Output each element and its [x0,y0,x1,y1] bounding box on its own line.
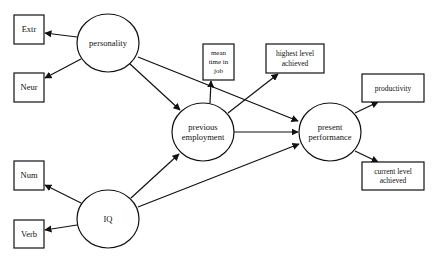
node-current-level-achieved: current levelachieved [362,162,424,190]
node-num: Num [14,161,44,190]
node-personality: personality [77,14,139,72]
node-highest-level-achieved: highest levelachieved [266,44,324,73]
node-neur: Neur [14,73,44,102]
node-mean-time-in-job: meantime injob [203,44,234,80]
node-iq: IQ [77,190,139,248]
neur-label: Neur [21,82,38,92]
previous-employment-label: previous [188,122,217,132]
mean-time-in-job-label: mean [211,49,227,57]
extr-label: Extr [22,24,37,34]
present-performance-label: performance [309,132,352,142]
arrow-personality-to-neur [45,59,81,78]
present-performance-label: present [318,122,343,132]
num-label: Num [21,170,38,180]
node-productivity: productivity [362,74,424,102]
node-previous-employment: previousemployment [172,103,234,161]
arrow-present-performance-to-current-level-achieved [355,151,378,162]
arrow-iq-to-verb [45,225,77,230]
mean-time-in-job-label: job [213,67,223,75]
personality-label: personality [89,38,128,48]
arrow-present-performance-to-productivity [355,102,378,113]
arrow-previous-employment-to-highest-level-achieved [228,74,278,113]
arrow-previous-employment-to-mean-time-in-job [210,81,211,103]
path-diagram: personalityIQpreviousemploymentpresentpe… [0,0,440,265]
highest-level-achieved-label: achieved [282,59,309,68]
verb-label: Verb [21,229,37,239]
arrow-iq-to-num [45,185,81,203]
highest-level-achieved-label: highest level [276,49,314,58]
arrow-iq-to-previous-employment [131,154,179,198]
node-extr: Extr [14,15,44,44]
mean-time-in-job-label: time in [209,58,229,66]
arrow-personality-to-extr [45,33,77,37]
node-present-performance: presentperformance [299,103,361,161]
previous-employment-label: employment [182,132,225,142]
current-level-achieved-label: achieved [380,176,407,185]
current-level-achieved-label: current level [374,167,412,176]
iq-label: IQ [104,214,113,224]
node-verb: Verb [14,220,44,248]
productivity-label: productivity [375,84,412,93]
